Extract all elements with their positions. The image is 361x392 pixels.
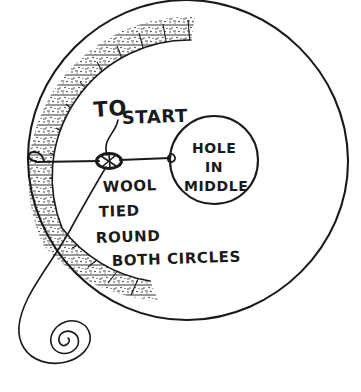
wool-knot bbox=[97, 154, 122, 169]
label-hole: HOLE bbox=[192, 140, 237, 156]
diagram-canvas: TO START HOLE IN MIDDLE WOOL TIED ROUND … bbox=[0, 0, 361, 392]
leader-line-to-start bbox=[106, 120, 118, 155]
label-both-circles: BOTH CIRCLES bbox=[112, 248, 242, 270]
label-start: START bbox=[121, 105, 188, 128]
wool-circles-diagram: TO START HOLE IN MIDDLE WOOL TIED ROUND … bbox=[0, 0, 361, 392]
label-in: IN bbox=[205, 159, 223, 175]
outer-circle bbox=[28, 0, 348, 320]
label-wool: WOOL bbox=[103, 176, 158, 196]
label-tied: TIED bbox=[99, 202, 141, 221]
label-middle: MIDDLE bbox=[184, 178, 248, 194]
hatched-crescent-band bbox=[0, 0, 361, 392]
label-round: ROUND bbox=[96, 227, 161, 247]
